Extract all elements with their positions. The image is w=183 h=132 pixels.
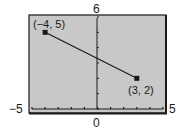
y-max-label: 6 [93,2,100,16]
point-label-right: (3, 2) [128,84,154,96]
point-label-left: (−4, 5) [33,18,65,30]
endpoint-marker-left [43,30,48,35]
endpoint-marker-right [134,76,139,81]
x-max-label: 5 [169,102,176,116]
x-min-label: −5 [9,102,23,116]
x-origin-label: 0 [93,116,100,130]
graphing-calculator-window: (−4, 5) (3, 2) 6 −5 5 0 [0,0,183,132]
